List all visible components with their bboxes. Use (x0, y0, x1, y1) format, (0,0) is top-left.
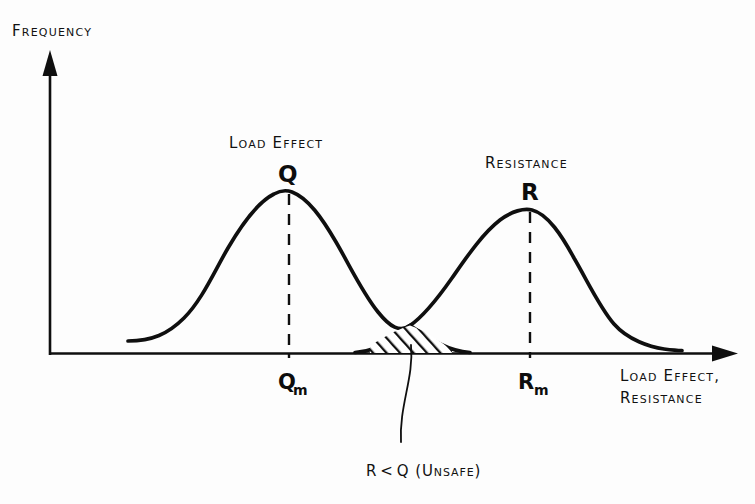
resistance-mean-subscript: m (534, 382, 549, 398)
load-effect-curve-label: Load Effect (229, 134, 323, 152)
resistance-curve-label: Resistance (485, 154, 568, 172)
figure-canvas: Frequency Load Effect Q Resistance R Q m… (0, 0, 755, 504)
x-axis-label-line1: Load Effect, (620, 367, 720, 385)
load-effect-symbol: Q (278, 161, 298, 187)
labels-group: Frequency Load Effect Q Resistance R Q m… (12, 22, 720, 480)
resistance-symbol: R (521, 179, 539, 205)
annot-caps: Unsafe (422, 462, 475, 480)
annot-prefix: R (366, 462, 377, 480)
y-axis-arrowhead (43, 50, 58, 76)
annot-suffix: ) (475, 462, 482, 480)
annot-operator: < (380, 462, 393, 480)
unsafe-annotation-label: R<Q (Unsafe) (366, 462, 481, 480)
load-effect-curve (128, 191, 470, 353)
axes-group (43, 50, 739, 362)
resistance-mean-label: R (518, 370, 534, 394)
x-axis-label-line2: Resistance (620, 389, 703, 407)
load-effect-mean-subscript: m (293, 382, 308, 398)
x-axis-arrowhead (712, 346, 738, 362)
reliability-diagram-figure: Frequency Load Effect Q Resistance R Q m… (0, 0, 755, 504)
annot-middle: Q ( (397, 462, 422, 480)
y-axis-label: Frequency (12, 22, 92, 40)
annotation-leader-line (401, 345, 412, 442)
